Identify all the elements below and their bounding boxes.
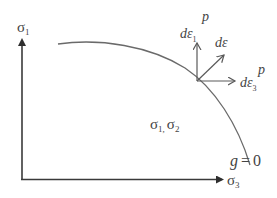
d-epsilon-3-p-label: dε3 [240,75,257,93]
yield-curve [58,42,250,165]
d-epsilon-3-p-superscript: p [257,62,265,77]
yield-surface-diagram: σ1 σ3 σ1,σ2 g=0 dε1 p dε dε3 p [0,0,277,198]
d-epsilon-1-p-superscript: p [201,9,209,24]
d-epsilon-label: dε [215,35,228,50]
g-equals-zero-label: g=0 [230,152,261,170]
d-epsilon-1-p-label: dε1 [180,26,197,44]
diagonal-vector [197,55,224,81]
sigma3-label: σ3 [227,172,240,190]
sigma1-label: σ1 [17,19,30,37]
sigma1-sigma2-label: σ1,σ2 [150,116,179,134]
